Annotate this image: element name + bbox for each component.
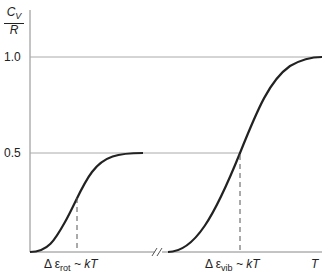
rotational-curve bbox=[30, 153, 143, 252]
axis-break-mark bbox=[157, 248, 162, 256]
y-tick-0.5: 0.5 bbox=[4, 146, 21, 160]
rot-annotation: Δ εrot ~ kT bbox=[44, 257, 98, 273]
y-tick-1.0: 1.0 bbox=[4, 50, 21, 64]
heat-capacity-chart bbox=[0, 0, 330, 278]
vibrational-curve bbox=[168, 57, 322, 252]
x-axis-label: T bbox=[311, 257, 318, 271]
vib-annotation: Δ εvib ~ kT bbox=[205, 257, 260, 273]
y-axis-label: CV R bbox=[4, 6, 24, 37]
